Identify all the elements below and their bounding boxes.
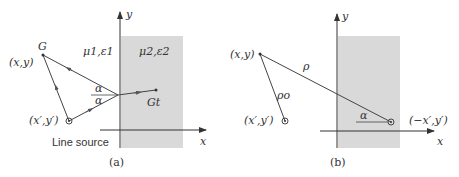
field-point-label: (x,y) <box>9 56 34 69</box>
reflected-ray <box>43 55 118 95</box>
medium-2-label: μ2,ε2 <box>139 45 170 58</box>
source-point-label: (x′,y′) <box>29 114 59 127</box>
x-label: x <box>437 135 444 148</box>
rho-o-label: ρo <box>276 89 290 102</box>
incident-ray <box>69 95 118 121</box>
gt-label: Gt <box>147 96 161 109</box>
rho-label: ρ <box>302 60 310 73</box>
caption-a: (a) <box>109 156 124 169</box>
medium-1-label: μ1,ε1 <box>83 45 114 58</box>
image-point-label: (−x′,y′) <box>409 114 448 127</box>
y-label: y <box>341 10 349 23</box>
source-point-label: (x′,y′) <box>244 114 274 127</box>
panel-a: y x G (x,y) μ1,ε1 μ2,ε2 α α Gt (x′,y′) L… <box>9 8 207 169</box>
caption-b: (b) <box>330 156 346 169</box>
alpha-label: α <box>360 109 368 122</box>
line-source-label: Line source <box>52 136 109 148</box>
panel-b: y x (x,y) ρ ρo (x′,y′) α (−x′,y′) (b) <box>230 10 448 169</box>
g-label: G <box>38 40 47 53</box>
diagram: y x G (x,y) μ1,ε1 μ2,ε2 α α Gt (x′,y′) L… <box>0 0 459 177</box>
rho-o-line <box>260 54 285 121</box>
alpha-bottom: α <box>95 94 103 107</box>
x-label: x <box>200 135 207 148</box>
y-label: y <box>125 8 133 21</box>
field-point-label: (x,y) <box>230 48 255 61</box>
